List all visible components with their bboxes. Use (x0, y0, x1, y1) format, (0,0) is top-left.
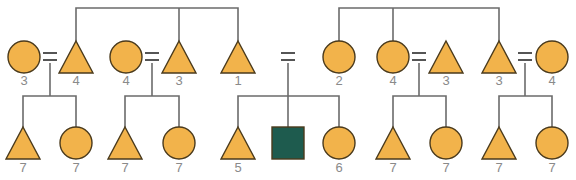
triangle-individual: 1 (221, 41, 255, 88)
triangle-individual: 3 (429, 41, 463, 88)
pedigree-diagram: 3443124334 7777567777 (0, 0, 576, 180)
circle-individual: 6 (323, 127, 355, 175)
individual-count-label: 3 (442, 73, 449, 88)
circle-individual: 7 (430, 127, 462, 175)
individual-count-label: 7 (495, 160, 502, 175)
circle-symbol (323, 127, 355, 159)
circle-symbol (323, 41, 355, 73)
circle-symbol (536, 41, 568, 73)
triangle-symbol (59, 41, 93, 73)
individual-count-label: 4 (389, 73, 396, 88)
bottom-row: 7777567777 (6, 127, 568, 175)
circle-individual: 4 (110, 41, 142, 88)
triangle-individual: 7 (6, 127, 40, 175)
triangle-symbol (376, 127, 410, 159)
circle-symbol (377, 41, 409, 73)
circle-individual: 4 (377, 41, 409, 88)
triangle-individual: 7 (376, 127, 410, 175)
individual-count-label: 3 (175, 73, 182, 88)
triangle-individual: 3 (162, 41, 196, 88)
top-sibship-lines (76, 8, 499, 41)
circle-symbol (60, 127, 92, 159)
individual-count-label: 4 (122, 73, 129, 88)
triangle-symbol (221, 41, 255, 73)
individual-count-label: 5 (234, 160, 241, 175)
circle-individual: 2 (323, 41, 355, 88)
triangle-symbol (221, 127, 255, 159)
triangle-individual: 5 (221, 127, 255, 175)
individual-count-label: 4 (548, 73, 555, 88)
triangle-individual: 4 (59, 41, 93, 88)
individual-count-label: 7 (72, 160, 79, 175)
equals-marriage-icon (518, 53, 532, 60)
equals-marriage-icon (145, 53, 159, 60)
individual-count-label: 6 (335, 160, 342, 175)
individual-count-label: 4 (72, 73, 79, 88)
circle-individual: 7 (536, 127, 568, 175)
individual-count-label: 7 (175, 160, 182, 175)
individual-count-label: 3 (20, 73, 27, 88)
circle-individual: 3 (8, 41, 40, 88)
individual-count-label: 7 (121, 160, 128, 175)
triangle-symbol (482, 41, 516, 73)
triangle-individual: 3 (482, 41, 516, 88)
equals-marriage-icon (281, 53, 295, 60)
triangle-individual: 7 (108, 127, 142, 175)
circle-symbol (430, 127, 462, 159)
circle-symbol (163, 127, 195, 159)
triangle-individual: 7 (482, 127, 516, 175)
circle-symbol (110, 41, 142, 73)
individual-count-label: 2 (335, 73, 342, 88)
circle-individual: 7 (163, 127, 195, 175)
equals-marriage-icon (412, 53, 426, 60)
affected-square-individual (272, 127, 304, 159)
square-symbol (272, 127, 304, 159)
triangle-symbol (6, 127, 40, 159)
individual-count-label: 3 (495, 73, 502, 88)
individual-count-label: 7 (548, 160, 555, 175)
individual-count-label: 7 (389, 160, 396, 175)
individual-count-label: 7 (442, 160, 449, 175)
circle-symbol (536, 127, 568, 159)
triangle-symbol (162, 41, 196, 73)
circle-symbol (8, 41, 40, 73)
individual-count-label: 7 (19, 160, 26, 175)
descent-lines (23, 63, 552, 127)
triangle-symbol (108, 127, 142, 159)
triangle-symbol (429, 41, 463, 73)
triangle-symbol (482, 127, 516, 159)
circle-individual: 4 (536, 41, 568, 88)
individual-count-label: 1 (234, 73, 241, 88)
circle-individual: 7 (60, 127, 92, 175)
equals-marriage-icon (43, 53, 57, 60)
